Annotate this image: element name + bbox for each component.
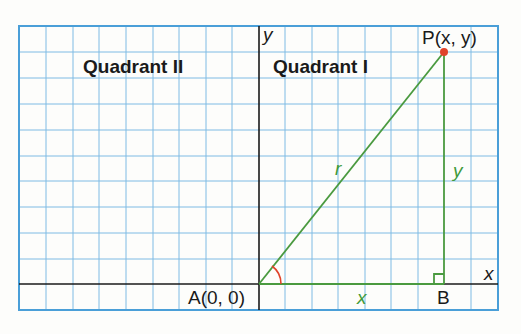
y-axis-label: y xyxy=(263,24,273,46)
point-b-label: B xyxy=(437,287,450,309)
segment-x-label: x xyxy=(357,287,367,309)
segment-y-label: y xyxy=(453,160,463,182)
right-triangle xyxy=(259,52,444,284)
point-p-dot xyxy=(440,48,448,56)
point-p-label: P(x, y) xyxy=(422,27,477,49)
quadrant-ii-label: Quadrant II xyxy=(83,56,183,78)
x-axis-label: x xyxy=(484,263,494,285)
segment-r-label: r xyxy=(335,158,341,180)
point-a-label: A(0, 0) xyxy=(188,287,245,309)
angle-arc xyxy=(272,266,281,284)
coordinate-plane xyxy=(0,0,521,334)
quadrant-i-label: Quadrant I xyxy=(273,56,368,78)
